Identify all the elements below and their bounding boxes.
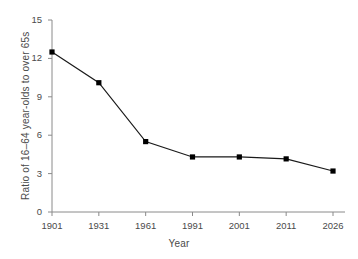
x-axis-tick-label: 2001 [219,220,259,231]
data-series-line [52,52,333,171]
y-axis-tick-label: 15 [16,14,42,25]
data-point-marker [284,156,289,161]
x-axis-title: Year [0,238,358,249]
x-axis-tick-label: 2026 [313,220,353,231]
data-point-marker [190,154,195,159]
data-point-markers [49,49,335,173]
x-axis-tick-label: 1961 [126,220,166,231]
data-point-marker [49,49,54,54]
data-point-marker [237,154,242,159]
x-axis-tick-label: 1931 [79,220,119,231]
x-axis-tick-label: 1901 [32,220,72,231]
x-axis-tick-label: 2011 [266,220,306,231]
data-point-marker [96,80,101,85]
chart-figure: 03691215 1901193119611991200120112026 Ra… [0,0,358,259]
data-point-marker [143,139,148,144]
x-axis-ticks [52,212,333,216]
x-axis-tick-label: 1991 [173,220,213,231]
y-axis-tick-label: 0 [16,206,42,217]
data-point-marker [330,168,335,173]
y-axis-title: Ratio of 16–64 year-olds to over 65s [20,32,31,200]
y-axis-ticks [48,20,52,212]
